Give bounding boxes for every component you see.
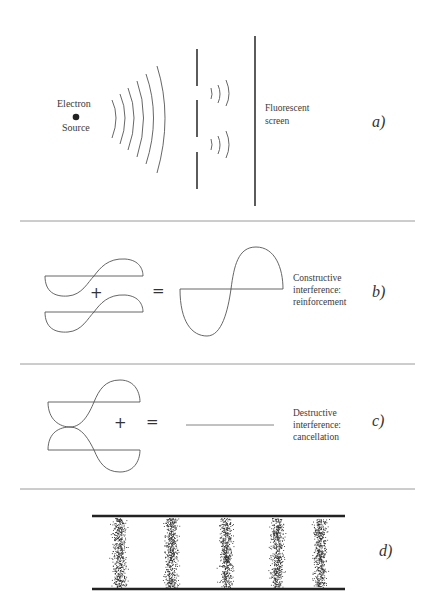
panel-c-equals: = — [146, 413, 159, 431]
electron-source-dot — [73, 114, 80, 121]
panel-c-caption-3: cancellation — [293, 432, 339, 444]
panel-a-graphic — [73, 36, 255, 206]
panel-c-plus: + — [114, 414, 127, 432]
panel-a-letter: a) — [372, 113, 385, 131]
screen-label-line1: Fluorescent — [265, 103, 309, 115]
interference-fringes — [109, 518, 330, 588]
panel-b-plus: + — [90, 284, 103, 302]
diffracted-wavelets-lower — [211, 131, 229, 158]
double-slit-diagram — [0, 0, 435, 613]
panel-b-letter: b) — [372, 283, 385, 301]
panel-b-equals: = — [152, 282, 165, 300]
electron-source-label-bottom: Source — [62, 122, 90, 134]
panel-d-graphic — [92, 516, 345, 589]
wave-c2 — [48, 427, 140, 472]
screen-label-line2: screen — [265, 116, 289, 128]
panel-d-letter: d) — [379, 542, 392, 560]
diffracted-wavelets-upper — [211, 80, 229, 106]
incident-wavefronts — [112, 66, 165, 173]
panel-c-caption-2: interference: — [293, 420, 341, 432]
panel-b-caption-1: Constructive — [293, 273, 342, 285]
panel-b-caption-3: reinforcement — [293, 297, 346, 309]
panel-c-letter: c) — [372, 412, 384, 430]
panel-c-caption-1: Destructive — [293, 408, 337, 420]
panel-c-graphic — [48, 380, 274, 472]
panel-b-caption-2: interference: — [293, 285, 341, 297]
wave-b-sum — [180, 247, 283, 336]
electron-source-label-top: Electron — [57, 98, 91, 110]
